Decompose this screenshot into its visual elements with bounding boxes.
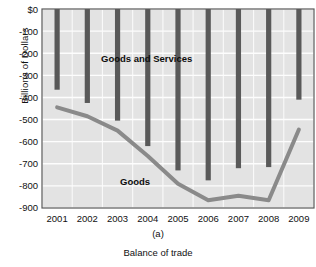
series-label-goods: Goods [120, 176, 150, 187]
x-tick-label: 2005 [167, 213, 188, 224]
series-label-goods-and-services: Goods and Services [101, 53, 192, 64]
x-tick-label: 2003 [107, 213, 128, 224]
x-tick-label: 2006 [198, 213, 219, 224]
x-tick-label: 2009 [288, 213, 309, 224]
x-tick-label: 2007 [228, 213, 249, 224]
chart-figure: Billions of Dollars $0 -100 -200 -300 -4… [0, 0, 316, 267]
x-axis-title: Balance of trade [0, 247, 316, 258]
figure-label: (a) [0, 228, 316, 239]
x-tick-label: 2001 [47, 213, 68, 224]
plot-area [0, 0, 316, 267]
x-tick-label: 2008 [258, 213, 279, 224]
x-tick-label: 2004 [137, 213, 158, 224]
x-tick-label: 2002 [77, 213, 98, 224]
